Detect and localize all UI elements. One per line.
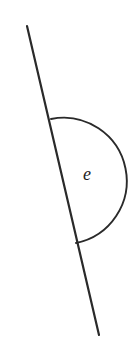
geometry-diagram: e bbox=[0, 0, 135, 356]
canvas-background bbox=[0, 0, 135, 356]
angle-label: e bbox=[83, 164, 91, 184]
diagram-canvas: e bbox=[0, 0, 135, 356]
